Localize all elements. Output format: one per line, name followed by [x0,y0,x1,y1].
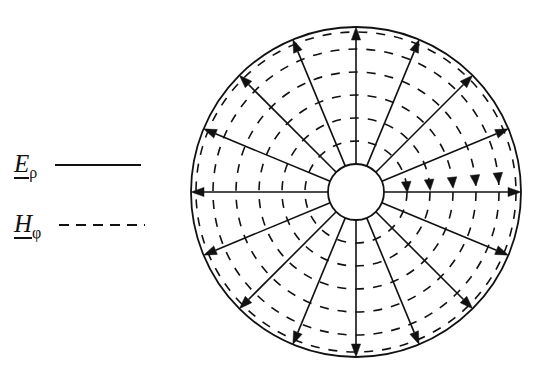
electric-field-arrow-shaft [382,203,497,250]
electric-field-arrow-shaft [249,85,337,173]
electric-field-arrowhead [495,129,509,138]
electric-field-arrow-shaft [382,134,497,181]
figure-root: Eρ Hφ [0,0,535,386]
electric-field-arrow-shaft [216,134,331,181]
magnetic-field-arrowhead [424,179,434,190]
electric-field-arrowhead [410,331,419,345]
electric-field-arrow-shaft [216,203,331,250]
electric-field-arrowhead [351,27,360,40]
electric-field-arrow-shaft [249,212,337,300]
electric-field-arrowhead [293,40,302,54]
magnetic-field-arrowhead [493,172,503,183]
magnetic-field-arrowhead [401,181,411,192]
electric-field-arrowhead [351,344,360,357]
magnetic-field-arrowhead [470,175,480,186]
electric-field-arrowhead [191,187,204,196]
electric-field-arrowhead [508,187,521,196]
magnetic-field-arrowheads-group [401,172,502,192]
electric-field-arrow-shaft [376,85,464,173]
inner-conductor-circle [328,164,384,220]
electric-field-arrow-shaft [376,212,464,300]
magnetic-field-arrowhead [447,177,457,188]
coaxial-field-diagram [0,0,535,386]
electric-field-arrowhead [204,246,218,255]
